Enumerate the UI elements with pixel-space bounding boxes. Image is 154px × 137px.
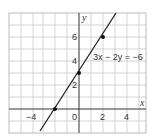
tick-y-6: 6 [72, 32, 77, 42]
y-axis-label: y [81, 12, 87, 23]
tick-x-neg4: −4 [26, 112, 36, 122]
tick-y-4: 4 [72, 56, 77, 66]
equation-label: 3x − 2y = −6 [93, 52, 143, 62]
x-axis-label: x [139, 97, 145, 108]
point-0-3 [77, 71, 81, 75]
tick-y-2: 2 [72, 80, 77, 90]
point-2-6 [101, 35, 105, 39]
point-neg2-0 [53, 107, 57, 111]
tick-x-0: 0 [72, 112, 77, 122]
tick-x-4: 4 [124, 112, 129, 122]
tick-x-2: 2 [100, 112, 105, 122]
coordinate-graph: y x −4 0 2 4 2 4 6 3x − 2y = −6 [0, 0, 154, 137]
